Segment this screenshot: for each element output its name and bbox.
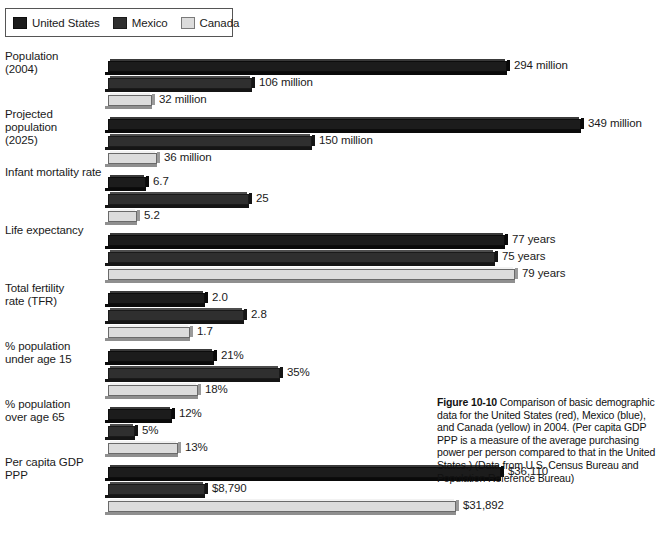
bar-right-cap: [507, 60, 510, 71]
bar-bottom-shadow: [105, 106, 152, 109]
bar-us[interactable]: [108, 351, 214, 362]
bar-value-label: $31,892: [463, 498, 504, 512]
bar-group-label: % populationunder age 15: [5, 340, 105, 366]
bar-group-label-line: rate (TFR): [5, 295, 105, 308]
bar-bottom-shadow: [105, 246, 505, 249]
bar-value-label: $8,790: [212, 481, 247, 495]
bar-right-cap: [152, 94, 155, 105]
legend-label-united-states: United States: [32, 17, 100, 29]
bar-bottom-shadow: [105, 512, 456, 515]
bar-right-cap: [312, 135, 315, 146]
legend-label-mexico: Mexico: [132, 17, 168, 29]
bar-mx[interactable]: [108, 252, 495, 263]
bar-group-label-line: Population: [5, 50, 105, 63]
bar-face: [108, 269, 515, 280]
legend-swatch-united-states-icon: [13, 17, 27, 29]
bar-face: [108, 252, 495, 263]
bar-face: [108, 95, 152, 106]
bar-bottom-shadow: [105, 321, 244, 324]
bar-value-label: 13%: [185, 440, 208, 454]
bar-right-cap: [205, 292, 208, 303]
bar-ca[interactable]: [108, 95, 152, 106]
figure-number: Figure 10-10: [437, 396, 497, 408]
bar-group-label-line: under age 15: [5, 353, 105, 366]
legend-item-canada: Canada: [181, 17, 240, 29]
bar-mx[interactable]: [108, 310, 244, 321]
bar-right-cap: [505, 234, 508, 245]
bar-bottom-shadow: [105, 304, 205, 307]
bar-right-cap: [146, 176, 149, 187]
bar-right-cap: [157, 152, 160, 163]
legend-swatch-mexico-icon: [113, 17, 127, 29]
bar-value-label: 150 million: [319, 133, 373, 147]
bar-us[interactable]: [108, 235, 505, 246]
bar-face: [108, 501, 456, 512]
bar-group-label: Total fertilityrate (TFR): [5, 282, 105, 308]
bar-ca[interactable]: [108, 443, 178, 454]
bar-bottom-shadow: [105, 379, 280, 382]
bar-value-label: 36 million: [164, 150, 212, 164]
bar-face: [108, 351, 214, 362]
bar-face: [108, 211, 137, 222]
bar-group-label-line: % population: [5, 340, 105, 353]
bar-us[interactable]: [108, 61, 507, 72]
bar-us[interactable]: [108, 177, 146, 188]
bar-bottom-shadow: [105, 280, 515, 283]
bar-right-cap: [456, 500, 459, 511]
bar-us[interactable]: [108, 119, 581, 130]
bar-right-cap: [135, 425, 138, 436]
bar-right-cap: [198, 384, 201, 395]
bar-value-label: 25: [256, 191, 269, 205]
bar-value-label: 77 years: [512, 232, 555, 246]
bar-right-cap: [244, 309, 247, 320]
bar-us[interactable]: [108, 409, 172, 420]
bar-mx[interactable]: [108, 194, 249, 205]
bar-face: [108, 177, 146, 188]
bar-right-cap: [249, 193, 252, 204]
bar-ca[interactable]: [108, 269, 515, 280]
bar-mx[interactable]: [108, 484, 205, 495]
bar-bottom-shadow: [105, 495, 205, 498]
bar-value-label: 5%: [142, 423, 158, 437]
bar-group-label-line: Projected population: [5, 108, 105, 134]
bar-face: [108, 409, 172, 420]
bar-right-cap: [280, 367, 283, 378]
legend-swatch-canada-icon: [181, 17, 195, 29]
bar-mx[interactable]: [108, 426, 135, 437]
bar-face: [108, 61, 507, 72]
bar-bottom-shadow: [105, 338, 190, 341]
bar-group-label: % populationover age 65: [5, 398, 105, 424]
legend-item-mexico: Mexico: [113, 17, 168, 29]
bar-mx[interactable]: [108, 136, 312, 147]
bar-bottom-shadow: [105, 164, 157, 167]
bar-group-label-line: Infant mortality rate: [5, 166, 105, 179]
bar-right-cap: [137, 210, 140, 221]
bar-right-cap: [178, 442, 181, 453]
bar-face: [108, 484, 205, 495]
bar-mx[interactable]: [108, 368, 280, 379]
bar-ca[interactable]: [108, 211, 137, 222]
bar-right-cap: [581, 118, 584, 129]
bar-right-cap: [190, 326, 193, 337]
figure-caption-text: Comparison of basic demographic data for…: [437, 396, 655, 484]
bar-face: [108, 327, 190, 338]
bar-right-cap: [172, 408, 175, 419]
bar-face: [108, 136, 312, 147]
bar-value-label: 12%: [179, 406, 202, 420]
bar-group-label: Projected population(2025): [5, 108, 105, 147]
bar-right-cap: [205, 483, 208, 494]
bar-right-cap: [495, 251, 498, 262]
bar-value-label: 349 million: [588, 116, 642, 130]
bar-face: [108, 235, 505, 246]
bar-bottom-shadow: [105, 205, 249, 208]
bar-bottom-shadow: [105, 437, 135, 440]
figure-caption: Figure 10-10 Comparison of basic demogra…: [437, 396, 663, 484]
bar-us[interactable]: [108, 293, 205, 304]
bar-ca[interactable]: [108, 385, 198, 396]
bar-value-label: 2.8: [251, 307, 267, 321]
bar-ca[interactable]: [108, 327, 190, 338]
bar-face: [108, 443, 178, 454]
bar-ca[interactable]: [108, 501, 456, 512]
bar-mx[interactable]: [108, 78, 252, 89]
bar-ca[interactable]: [108, 153, 157, 164]
